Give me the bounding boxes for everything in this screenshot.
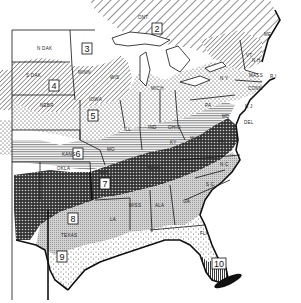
svg-text:7: 7 [102,179,107,189]
state-label: OHIO [168,125,181,130]
svg-text:4: 4 [51,81,56,91]
svg-text:2: 2 [154,24,159,34]
zone-label-10: 10 [212,258,226,269]
state-label: ALA [155,203,164,208]
state-label: KANS [62,152,75,157]
state-label: MO [107,147,115,152]
zone-label-3: 3 [82,43,92,54]
state-label: ARK [99,170,109,175]
state-label: MISS [129,203,141,208]
svg-text:3: 3 [84,44,89,54]
zone-label-2: 2 [152,23,162,34]
svg-text:10: 10 [214,259,224,269]
zone-map: 2 3 4 5 6 7 8 9 10 N DAK S DAK MINN WIS … [0,0,301,303]
state-label: NEBR [40,103,54,108]
svg-text:8: 8 [70,214,75,224]
zone-label-7: 7 [100,178,110,189]
state-label: W VA [190,136,202,141]
state-label: OKLA [57,166,70,171]
state-label: WIS [110,75,119,80]
state-label: MD [222,114,230,119]
state-label: S DAK [26,73,41,78]
state-label: N C [220,162,229,167]
state-label: GA [183,199,190,204]
zone-label-4: 4 [49,80,59,91]
state-label: MICH [151,86,164,91]
zone-label-9: 9 [57,251,67,262]
state-label: MINN [78,70,91,75]
state-label: LA [110,217,116,222]
state-label: N DAK [37,46,52,51]
zone-label-5: 5 [88,110,98,121]
state-label: IND [148,125,157,130]
state-label: IOWA [89,97,102,102]
state-label: ONT [138,15,148,20]
state-label: TEXAS [61,233,77,238]
svg-text:9: 9 [59,252,64,262]
svg-text:5: 5 [90,111,95,121]
state-label: N J [245,104,253,109]
state-label: VA [218,139,224,144]
state-label: VT [246,53,252,58]
state-label: N H [252,58,261,63]
state-label: CONN [248,86,262,91]
state-label: FLA [200,231,209,236]
state-label: DEL [244,120,254,125]
state-label: ME [264,32,271,37]
state-label: ILL [124,127,131,132]
state-label: KY [170,140,177,145]
state-label: N Y [220,76,228,81]
state-label: MASS [249,73,263,78]
zone-label-8: 8 [68,213,78,224]
state-label: R I [270,74,277,79]
state-label: TENN [147,166,160,171]
svg-text:6: 6 [75,149,80,159]
state-label: PA [205,103,211,108]
state-label: S C [206,182,215,187]
